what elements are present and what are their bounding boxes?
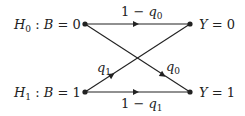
node-b0 [82,21,87,26]
hyp-subscript: 1 [25,92,31,102]
edge-label-b1-y0: q1 [97,61,111,77]
hyp-symbol: H [14,17,25,32]
hyp-subscript: 0 [25,24,31,34]
output-value: = 1 [212,85,235,100]
edge-label-sub: 1 [157,103,163,113]
hyp-symbol: H [14,85,25,100]
edge-label-prefix: 1 − [121,96,148,111]
input-var: B [44,85,54,100]
input-value: = 1 [57,85,80,100]
edge-label-b0-y0: 1 − q0 [121,5,163,21]
input-value: = 0 [57,17,80,32]
node-y0 [187,21,192,26]
input-label-h1: H1 : B = 1 [14,86,81,102]
node-b1 [82,89,87,94]
edge-label-var: q [148,4,156,19]
arrow-icon [133,89,139,95]
output-label-y1: Y = 1 [199,86,235,99]
edge-label-var: q [148,96,156,111]
output-var: Y [199,17,208,32]
edge-label-prefix: 1 − [121,4,148,19]
output-value: = 0 [212,17,235,32]
edge-label-sub: 0 [157,11,163,21]
output-var: Y [199,85,208,100]
edge-label-b1-y1: 1 − q1 [121,97,163,113]
arrow-icon [133,21,139,27]
separator: : [35,17,39,32]
output-label-y0: Y = 0 [199,18,235,31]
edge-label-sub: 0 [174,66,180,76]
channel-diagram: H0 : B = 0 H1 : B = 1 Y = 0 Y = 1 1 − q0… [0,0,245,116]
input-label-h0: H0 : B = 0 [14,18,81,34]
edge-label-b0-y1: q0 [166,60,180,76]
separator: : [35,85,39,100]
node-y1 [187,89,192,94]
input-var: B [44,17,54,32]
edge-label-sub: 1 [105,67,111,77]
